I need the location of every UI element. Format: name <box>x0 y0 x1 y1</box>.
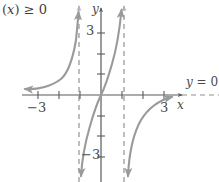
y-tick-label-pos3: 3 <box>86 24 94 37</box>
function-graph-plot <box>0 0 219 182</box>
x-axis-label: x <box>177 99 184 111</box>
x-tick-label-pos3: 3 <box>160 101 168 114</box>
curve-left-branch <box>25 12 79 89</box>
caption-fragment: (x) ≥ 0 <box>2 3 47 16</box>
y-tick-label-neg3: −3 <box>81 148 100 161</box>
graph-figure: (x) ≥ 0 y x y = 0 −3 3 3 −3 <box>0 0 219 182</box>
horizontal-asymptote-label: y = 0 <box>186 76 218 88</box>
asymptote-variable: y <box>186 75 193 89</box>
x-tick-label-neg3: −3 <box>27 101 46 114</box>
y-axis-label: y <box>92 3 99 15</box>
asymptote-equation: = 0 <box>193 75 218 89</box>
caption-suffix: ) ≥ 0 <box>14 2 47 17</box>
